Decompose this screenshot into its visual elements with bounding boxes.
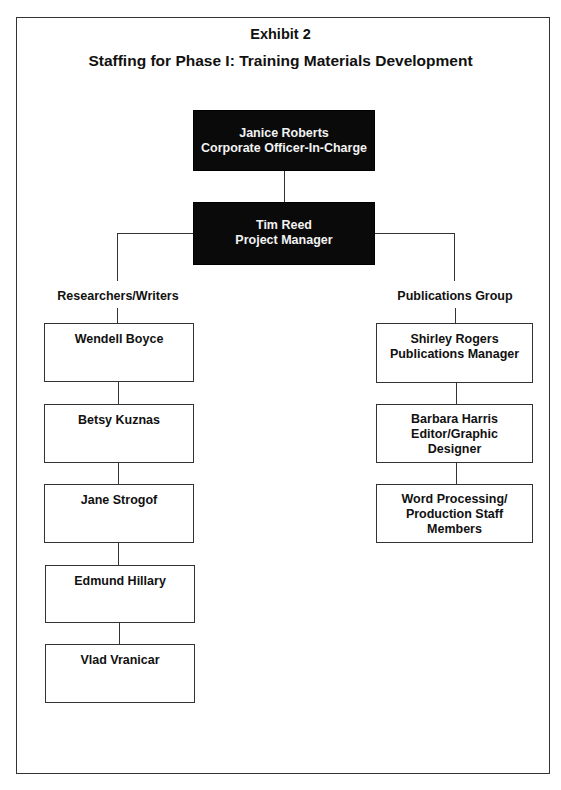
- connector-line: [117, 308, 118, 323]
- connector-line: [118, 382, 119, 404]
- org-node-editor: Barbara Harris Editor/Graphic Designer: [376, 404, 533, 463]
- node-role: Editor/Graphic: [377, 427, 532, 442]
- node-name: Janice Roberts: [194, 126, 374, 141]
- group-label-researchers: Researchers/Writers: [30, 289, 206, 303]
- org-node-researcher: Vlad Vranicar: [45, 644, 195, 703]
- org-node-production-staff: Word Processing/ Production Staff Member…: [376, 484, 533, 543]
- org-node-researcher: Betsy Kuznas: [44, 404, 194, 463]
- node-role: Designer: [377, 442, 532, 457]
- chart-title: Staffing for Phase I: Training Materials…: [0, 52, 561, 70]
- connector-line: [456, 463, 457, 484]
- node-role: Production Staff: [377, 507, 532, 522]
- node-role: Corporate Officer-In-Charge: [194, 141, 374, 156]
- node-name: Edmund Hillary: [46, 574, 194, 589]
- connector-line: [375, 233, 455, 234]
- connector-line: [117, 233, 118, 281]
- connector-line: [118, 463, 119, 484]
- node-role: Members: [377, 522, 532, 537]
- node-name: Tim Reed: [194, 218, 374, 233]
- node-name: Betsy Kuznas: [45, 413, 193, 428]
- org-node-researcher: Wendell Boyce: [44, 323, 194, 382]
- connector-line: [284, 171, 285, 202]
- group-label-publications: Publications Group: [370, 289, 540, 303]
- node-name: Wendell Boyce: [45, 332, 193, 347]
- org-node-corporate-officer: Janice Roberts Corporate Officer-In-Char…: [193, 110, 375, 171]
- connector-line: [454, 233, 455, 281]
- connector-line: [118, 543, 119, 565]
- node-name: Barbara Harris: [377, 412, 532, 427]
- org-node-researcher: Jane Strogof: [44, 484, 194, 543]
- connector-line: [117, 233, 193, 234]
- node-name: Vlad Vranicar: [46, 653, 194, 668]
- node-name: Shirley Rogers: [377, 332, 532, 347]
- org-node-project-manager: Tim Reed Project Manager: [193, 202, 375, 265]
- node-name: Word Processing/: [377, 492, 532, 507]
- node-role: Publications Manager: [377, 347, 532, 362]
- org-node-researcher: Edmund Hillary: [45, 565, 195, 623]
- org-node-publications-manager: Shirley Rogers Publications Manager: [376, 323, 533, 383]
- connector-line: [456, 383, 457, 404]
- connector-line: [119, 623, 120, 644]
- connector-line: [455, 308, 456, 323]
- node-name: Jane Strogof: [45, 493, 193, 508]
- exhibit-number: Exhibit 2: [0, 26, 561, 42]
- node-role: Project Manager: [194, 233, 374, 248]
